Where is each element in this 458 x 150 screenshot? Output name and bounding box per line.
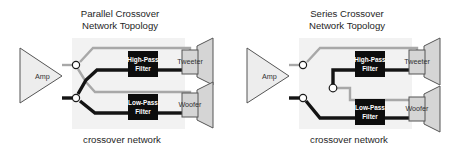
diagram-canvas: Parallel Crossover Network Topology Seri…	[0, 0, 458, 150]
series-high-pass-label-line1: High-Pass	[354, 56, 386, 64]
series-title-line1: Series Crossover	[310, 8, 384, 19]
parallel-woofer-label: Woofer	[178, 100, 202, 109]
parallel-junction-node-a	[72, 61, 79, 68]
series-junction-node-a	[299, 61, 306, 68]
series-low-pass-label-line2: Filter	[362, 113, 378, 120]
series-tweeter-label: Tweeter	[404, 57, 430, 66]
series-junction-node-mid	[329, 84, 337, 92]
filter-block-icon	[355, 51, 385, 77]
parallel-amp-label: Amp	[35, 72, 50, 81]
series-low-pass-filter: Low-Pass Filter	[355, 99, 385, 125]
filter-block-icon	[128, 51, 158, 77]
parallel-junction-node-b	[72, 94, 79, 101]
parallel-low-pass-label-line2: Filter	[135, 108, 151, 115]
filter-block-icon	[355, 99, 385, 125]
parallel-amp: Amp	[20, 48, 62, 103]
series-high-pass-filter: High-Pass Filter	[354, 51, 386, 77]
parallel-caption: crossover network	[83, 134, 161, 145]
parallel-high-pass-label-line2: Filter	[135, 65, 151, 72]
parallel-high-pass-filter: High-Pass Filter	[127, 51, 159, 77]
parallel-low-pass-label-line1: Low-Pass	[128, 99, 158, 106]
series-title-line2: Network Topology	[309, 20, 385, 31]
parallel-high-pass-label-line1: High-Pass	[127, 56, 159, 64]
series-woofer-label: Woofer	[405, 104, 429, 113]
series-junction-node-b	[299, 94, 306, 101]
series-amp-label: Amp	[262, 72, 277, 81]
series-high-pass-label-line2: Filter	[362, 65, 378, 72]
parallel-title-line2: Network Topology	[82, 20, 158, 31]
series-caption: crossover network	[310, 134, 388, 145]
parallel-title-line1: Parallel Crossover	[81, 8, 160, 19]
parallel-low-pass-filter: Low-Pass Filter	[128, 94, 158, 120]
series-low-pass-label-line1: Low-Pass	[355, 104, 385, 111]
series-amp: Amp	[247, 48, 289, 103]
filter-block-icon	[128, 94, 158, 120]
parallel-crossover-diagram: Parallel Crossover Network Topology Seri…	[0, 0, 458, 150]
parallel-tweeter-label: Tweeter	[177, 57, 203, 66]
